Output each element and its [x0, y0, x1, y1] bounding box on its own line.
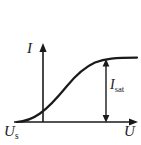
- figure-canvas: [0, 0, 141, 145]
- stopping-voltage-subscript: s: [15, 131, 18, 141]
- y-axis-label: I: [27, 41, 32, 56]
- stopping-voltage-symbol: U: [4, 123, 15, 139]
- saturation-current-subscript: sat: [115, 84, 124, 94]
- x-axis: [14, 118, 138, 125]
- photoelectric-iv-figure: I U Us Isat: [0, 0, 141, 145]
- stopping-voltage-label: Us: [4, 124, 18, 139]
- x-axis-label: U: [124, 124, 135, 139]
- saturation-current-label: Isat: [110, 78, 124, 92]
- saturation-current-arrow: [103, 59, 110, 123]
- saturation-current-symbol: I: [110, 77, 115, 92]
- y-axis-arrowhead-icon: [39, 43, 46, 52]
